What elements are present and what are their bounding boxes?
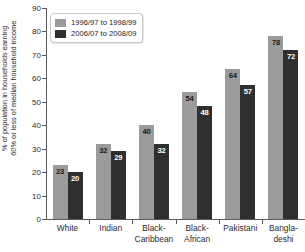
legend-label-series-0: 1996/97 to 1998/99 bbox=[71, 18, 136, 27]
bar-series-0-indian: 32 bbox=[96, 144, 111, 219]
x-axis-category-label: Black- African bbox=[184, 223, 210, 244]
bar-value-label: 32 bbox=[96, 146, 111, 155]
y-axis-tick bbox=[42, 172, 46, 173]
legend-swatch-icon-series-1 bbox=[55, 30, 66, 38]
y-axis-tick bbox=[42, 196, 46, 197]
y-axis-tick-label: 60 bbox=[32, 74, 41, 83]
x-axis-tick bbox=[176, 219, 177, 224]
bar-series-1-pakistani: 57 bbox=[240, 85, 255, 219]
legend-item-series-1: 2006/07 to 2008/09 bbox=[55, 28, 136, 39]
y-axis-tick-label: 50 bbox=[32, 97, 41, 106]
legend: 1996/97 to 1998/99 2006/07 to 2008/09 bbox=[50, 13, 143, 43]
bar-series-1-black-african: 48 bbox=[197, 106, 212, 219]
bar-series-1-bangla-deshi: 72 bbox=[283, 50, 298, 219]
bar-value-label: 64 bbox=[225, 71, 240, 80]
bar-value-label: 20 bbox=[68, 174, 83, 183]
bar-series-0-pakistani: 64 bbox=[225, 69, 240, 219]
bar-chart: % of population in households earning 60… bbox=[0, 0, 305, 252]
bar-value-label: 23 bbox=[53, 167, 68, 176]
x-axis-category-label: White bbox=[57, 223, 78, 234]
bar-series-0-black-african: 54 bbox=[182, 92, 197, 219]
x-axis-tick bbox=[132, 219, 133, 224]
y-axis-tick bbox=[42, 8, 46, 9]
x-axis-category-label: Indian bbox=[99, 223, 122, 234]
x-axis-category-label: Black- Caribbean bbox=[135, 223, 174, 244]
x-axis-tick bbox=[219, 219, 220, 224]
bar-value-label: 48 bbox=[197, 108, 212, 117]
x-axis-category-label: Pakistani bbox=[223, 223, 257, 234]
y-axis-tick-label: 30 bbox=[32, 144, 41, 153]
y-axis-tick-label: 70 bbox=[32, 50, 41, 59]
y-axis-tick bbox=[42, 102, 46, 103]
bar-value-label: 29 bbox=[111, 153, 126, 162]
y-axis-line bbox=[46, 8, 47, 219]
y-axis-tick-label: 40 bbox=[32, 121, 41, 130]
bar-series-1-indian: 29 bbox=[111, 151, 126, 219]
y-axis-title: % of population in households earning 60… bbox=[0, 0, 18, 190]
y-axis-tick-label: 10 bbox=[32, 191, 41, 200]
bar-series-0-black-caribbean: 40 bbox=[139, 125, 154, 219]
x-axis-tick bbox=[89, 219, 90, 224]
x-axis-category-label: Bangla- deshi bbox=[269, 223, 298, 244]
bar-series-1-black-caribbean: 32 bbox=[154, 144, 169, 219]
y-axis-tick bbox=[42, 125, 46, 126]
y-axis-tick-label: 90 bbox=[32, 4, 41, 13]
y-axis-tick bbox=[42, 55, 46, 56]
legend-label-series-1: 2006/07 to 2008/09 bbox=[71, 29, 136, 38]
y-axis-tick bbox=[42, 219, 46, 220]
bar-series-1-white: 20 bbox=[68, 172, 83, 219]
legend-item-series-0: 1996/97 to 1998/99 bbox=[55, 17, 136, 28]
bar-value-label: 57 bbox=[240, 87, 255, 96]
bar-value-label: 32 bbox=[154, 146, 169, 155]
y-axis-tick-label: 20 bbox=[32, 168, 41, 177]
y-axis-tick bbox=[42, 78, 46, 79]
bar-value-label: 72 bbox=[283, 52, 298, 61]
legend-swatch-icon-series-0 bbox=[55, 19, 66, 27]
bar-value-label: 54 bbox=[182, 94, 197, 103]
bar-series-0-white: 23 bbox=[53, 165, 68, 219]
y-axis-tick bbox=[42, 149, 46, 150]
y-axis-tick-label: 80 bbox=[32, 27, 41, 36]
bar-value-label: 40 bbox=[139, 127, 154, 136]
x-axis-tick bbox=[262, 219, 263, 224]
bar-series-0-bangla-deshi: 78 bbox=[268, 36, 283, 219]
y-axis-tick bbox=[42, 31, 46, 32]
bar-value-label: 78 bbox=[268, 38, 283, 47]
y-axis-tick-label: 0 bbox=[37, 215, 41, 224]
